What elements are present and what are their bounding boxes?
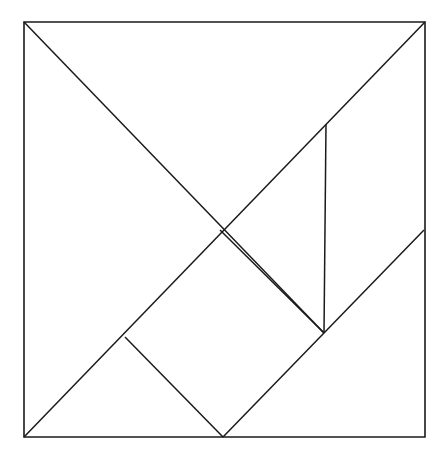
tangram-canvas [0, 0, 445, 460]
tangram-drawing [0, 0, 445, 460]
paper-background [0, 0, 445, 460]
